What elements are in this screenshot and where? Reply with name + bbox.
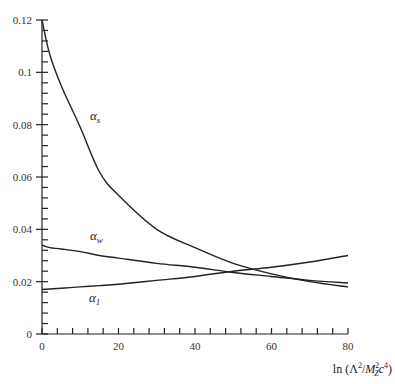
x-tick-label: 0	[39, 340, 45, 352]
y-tick-label: 0.02	[13, 276, 32, 288]
x-tick-label: 20	[113, 340, 125, 352]
y-tick-label: 0.04	[13, 223, 33, 235]
y-tick-label: 0.08	[13, 119, 33, 131]
y-axis-ticks: 00.020.040.060.080.10.12	[13, 14, 48, 340]
series-label-alpha-w: αw	[90, 228, 103, 245]
y-tick-label: 0.1	[18, 66, 32, 78]
series-label-alpha-1: α1	[89, 290, 100, 307]
x-tick-label: 60	[266, 340, 278, 352]
x-axis-label: ln (Λ2/M2Zc4)	[333, 361, 392, 378]
series-line-s	[42, 20, 348, 287]
y-tick-label: 0.06	[13, 171, 33, 183]
x-tick-label: 40	[190, 340, 202, 352]
series-line-1	[42, 256, 348, 290]
x-tick-label: 80	[343, 340, 355, 352]
coupling-constants-chart: 00.020.040.060.080.10.12 020406080 αs αw…	[0, 0, 395, 384]
y-tick-label: 0	[27, 328, 33, 340]
series-curves	[42, 20, 348, 290]
x-axis-ticks: 020406080	[39, 328, 354, 352]
y-tick-label: 0.12	[13, 14, 32, 26]
series-label-alpha-s: αs	[90, 108, 101, 125]
series-line-w	[42, 245, 348, 283]
